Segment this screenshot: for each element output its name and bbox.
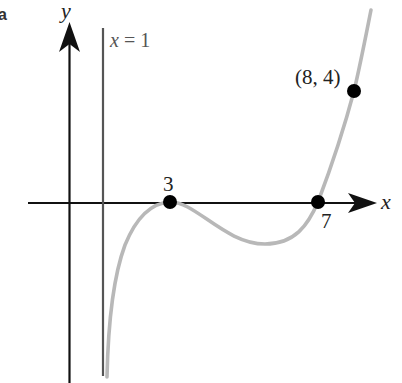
point-root-3 [163,195,177,209]
point-8-4 [347,84,361,98]
y-axis-label: y [59,0,71,23]
graph: a y x x = 1 3 7 (8, 4) [0,0,402,383]
asymptote-label: x = 1 [109,29,150,51]
point-label-8-4: (8, 4) [295,65,341,89]
part-label: a [0,6,7,23]
asymptote-eq: = 1 [119,29,150,51]
x-axis-label: x [380,189,391,214]
point-label-3: 3 [163,172,174,196]
point-root-7 [311,195,325,209]
point-label-7: 7 [321,209,332,233]
